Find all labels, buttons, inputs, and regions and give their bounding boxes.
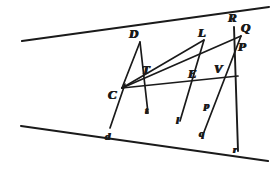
point-label-p: p [204,100,210,111]
point-label-l: l [176,115,179,126]
point-label-C: C [108,88,117,101]
point-label-q: q [199,128,205,139]
lower-oblique-line [21,126,268,161]
geometry-canvas [0,0,280,173]
point-label-T: T [142,63,150,76]
point-label-t: t [145,105,148,116]
point-label-E: E [188,67,197,80]
point-label-R: R [228,11,237,24]
point-label-Q: Q [241,21,250,34]
point-label-d: d [105,131,111,142]
point-label-P: P [238,40,246,53]
stroke-layer [21,7,269,161]
point-label-L: L [198,26,206,39]
figure-root: DLRQPTEVCptlqdr [0,0,280,173]
point-label-V: V [214,62,223,75]
point-label-D: D [129,27,138,40]
point-label-r: r [233,144,237,155]
